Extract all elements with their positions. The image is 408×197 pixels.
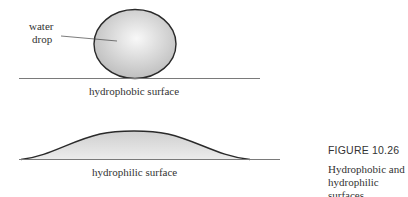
figure-caption-line1: Hydrophobic and	[328, 163, 408, 176]
figure-caption-line2: hydrophilic surfaces.	[328, 176, 408, 197]
hydrophobic-surface-label: hydrophobic surface	[89, 85, 179, 97]
hydrophobic-diagram: water drop hydrophobic surface	[19, 10, 260, 98]
water-drop-label-line2: drop	[32, 33, 53, 45]
figure-caption: Hydrophobic and hydrophilic surfaces.	[328, 163, 408, 197]
hydrophilic-surface-label: hydrophilic surface	[92, 166, 177, 178]
water-drop	[94, 10, 176, 79]
hydrophilic-diagram: hydrophilic surface	[19, 131, 280, 178]
water-drop-label-line1: water	[29, 20, 54, 32]
figure-number: FIGURE 10.26	[328, 144, 399, 156]
water-film	[21, 131, 250, 160]
